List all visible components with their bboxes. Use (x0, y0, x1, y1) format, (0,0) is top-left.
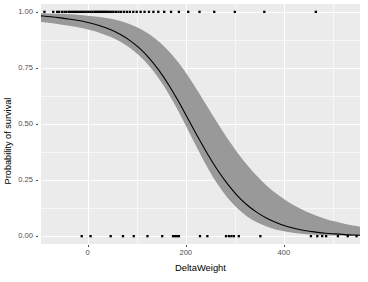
rug-point (321, 235, 323, 237)
y-tick-label: 0.00 (0, 232, 33, 240)
rug-point (80, 11, 82, 13)
rug-point (63, 11, 65, 13)
y-tick-label: 0.25 (0, 176, 33, 184)
rug-point (146, 235, 148, 237)
rug-point (132, 11, 134, 13)
x-axis-title: DeltaWeight (41, 262, 360, 273)
y-tick-label: 0.50 (0, 120, 33, 128)
rug-point (78, 11, 80, 13)
rug-point (89, 11, 91, 13)
rug-point (82, 11, 84, 13)
rug-point (163, 11, 165, 13)
rug-point (187, 11, 189, 13)
x-tick-label: 0 (68, 249, 108, 257)
rug-point (170, 11, 172, 13)
rug-point (337, 235, 339, 237)
y-tick-mark (36, 236, 38, 237)
rug-point (89, 235, 91, 237)
rug-point (199, 235, 201, 237)
y-tick-label: 1.00 (0, 8, 33, 16)
rug-point (120, 11, 122, 13)
rug-point (65, 11, 67, 13)
rug-point (72, 11, 74, 13)
rug-point (109, 11, 111, 13)
rug-point (112, 11, 114, 13)
rug-point (174, 235, 176, 237)
rug-point (129, 11, 131, 13)
rug-point (123, 11, 125, 13)
rug-point (107, 11, 109, 13)
rug-point (56, 11, 58, 13)
rug-point (315, 11, 317, 13)
rug-point (259, 235, 261, 237)
rug-point (316, 235, 318, 237)
y-tick-label: 0.75 (0, 64, 33, 72)
rug-point (117, 11, 119, 13)
rug-point (136, 11, 138, 13)
rug-point (198, 11, 200, 13)
rug-point (152, 11, 154, 13)
rug-point (178, 11, 180, 13)
y-tick-mark (36, 180, 38, 181)
rug-point (110, 235, 112, 237)
rug-point (81, 235, 83, 237)
x-tick-label: 400 (264, 249, 304, 257)
rug-point (172, 235, 174, 237)
rug-point (91, 11, 93, 13)
rug-point (126, 11, 128, 13)
rug-point (85, 11, 87, 13)
y-tick-mark (36, 12, 38, 13)
rug-point (263, 11, 265, 13)
y-axis-title-text: Probability of survival (3, 98, 13, 185)
rug-points-survived (43, 11, 317, 13)
rug-point (61, 11, 63, 13)
y-tick-mark (36, 68, 38, 69)
rug-points-died (81, 235, 358, 237)
rug-point (238, 235, 240, 237)
rug-point (325, 235, 327, 237)
rug-point (148, 11, 150, 13)
rug-point (176, 235, 178, 237)
rug-point (133, 235, 135, 237)
confidence-band (41, 13, 360, 236)
rug-point (111, 11, 113, 13)
chart-canvas (41, 4, 360, 244)
rug-point (230, 235, 232, 237)
rug-point (84, 11, 86, 13)
rug-point (213, 11, 215, 13)
plot-panel (41, 4, 360, 244)
rug-point (233, 235, 235, 237)
rug-point (115, 11, 117, 13)
logistic-regression-plot: Probability of survival 0.000.250.500.75… (0, 0, 368, 282)
rug-point (206, 235, 208, 237)
rug-point (225, 235, 227, 237)
rug-point (157, 11, 159, 13)
y-tick-mark (36, 124, 38, 125)
rug-point (161, 235, 163, 237)
rug-point (143, 11, 145, 13)
rug-point (355, 235, 357, 237)
rug-point (87, 11, 89, 13)
rug-point (58, 11, 60, 13)
rug-point (52, 11, 54, 13)
rug-point (122, 235, 124, 237)
rug-point (234, 11, 236, 13)
rug-point (76, 11, 78, 13)
rug-point (228, 235, 230, 237)
rug-point (347, 235, 349, 237)
rug-point (310, 235, 312, 237)
x-tick-label: 200 (166, 249, 206, 257)
rug-point (74, 11, 76, 13)
rug-point (70, 11, 72, 13)
rug-point (139, 11, 141, 13)
rug-point (43, 11, 45, 13)
rug-point (68, 11, 70, 13)
rug-point (178, 235, 180, 237)
